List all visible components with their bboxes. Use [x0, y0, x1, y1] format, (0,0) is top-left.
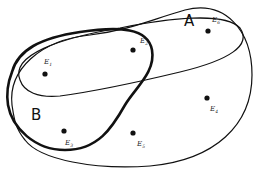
point-e2-dot [130, 47, 135, 52]
point-e6-label: E6 [211, 16, 220, 25]
point-e1-dot [42, 71, 47, 76]
set-a-label: A [184, 12, 195, 30]
point-e5-label: E5 [136, 140, 145, 149]
point-e4-dot [204, 95, 209, 100]
point-e3-label: E3 [64, 139, 73, 148]
point-e1-label: E1 [43, 58, 52, 67]
point-e5-dot [130, 130, 135, 135]
point-e6-dot [205, 28, 210, 33]
set-b-label: B [31, 106, 41, 124]
set-diagram: A B E1 E2 E6 E4 E5 E3 [0, 0, 255, 170]
point-e3-dot [61, 128, 66, 133]
point-e4-label: E4 [209, 105, 218, 114]
